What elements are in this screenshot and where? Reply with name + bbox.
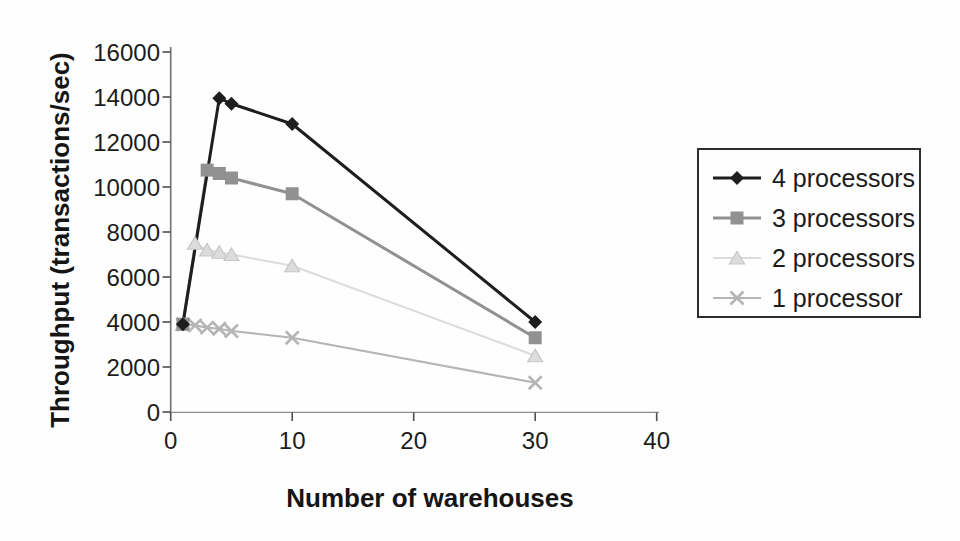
legend-marker-square-icon	[711, 203, 763, 233]
data-point-marker-square	[213, 167, 226, 180]
x-tick-label: 30	[522, 427, 549, 454]
figure: 0200040006000800010000120001400016000010…	[0, 0, 960, 541]
legend-item-label: 1 processor	[772, 284, 903, 313]
series-markers-2-processors	[175, 237, 542, 362]
data-point-marker-diamond	[212, 91, 226, 105]
data-point-marker-triangle	[188, 237, 203, 250]
legend: 4 processors 3 processors 2 processors 1…	[697, 148, 921, 318]
series-markers-1-processor	[176, 318, 541, 390]
x-tick-label: 0	[164, 427, 177, 454]
data-point-marker-square	[286, 187, 299, 200]
y-tick-label: 0	[147, 399, 160, 426]
y-tick-label: 4000	[107, 309, 160, 336]
y-axis-title: Throughput (transactions/sec)	[44, 20, 76, 460]
y-tick-label: 8000	[107, 219, 160, 246]
legend-item-4-processors: 4 processors	[711, 158, 919, 198]
legend-marker-diamond-icon	[711, 163, 763, 193]
data-point-marker-diamond	[224, 97, 238, 111]
data-point-marker-square	[201, 164, 214, 177]
x-tick-label: 40	[643, 427, 670, 454]
x-tick-label: 10	[279, 427, 306, 454]
series-markers-4-processors	[176, 91, 542, 331]
x-axis-title: Number of warehouses	[250, 483, 610, 514]
y-tick-label: 10000	[93, 174, 160, 201]
legend-item-label: 2 processors	[772, 244, 915, 273]
data-point-marker-square	[225, 172, 238, 185]
data-point-marker-triangle	[528, 349, 543, 362]
y-tick-label: 2000	[107, 354, 160, 381]
y-tick-label: 12000	[93, 129, 160, 156]
legend-marker-triangle-icon	[711, 243, 763, 273]
legend-item-2-processors: 2 processors	[711, 238, 919, 278]
legend-marker-x-icon	[711, 283, 763, 313]
y-tick-label: 14000	[93, 84, 160, 111]
y-tick-label: 6000	[107, 264, 160, 291]
data-point-marker-square	[731, 212, 744, 225]
legend-item-3-processors: 3 processors	[711, 198, 919, 238]
x-tick-label: 20	[400, 427, 427, 454]
legend-item-1-processor: 1 processor	[711, 278, 919, 318]
legend-item-label: 4 processors	[772, 164, 915, 193]
y-tick-label: 16000	[93, 39, 160, 66]
legend-item-label: 3 processors	[772, 204, 915, 233]
data-point-marker-diamond	[730, 171, 744, 185]
series-line-1-processor	[183, 324, 535, 383]
data-point-marker-square	[529, 331, 542, 344]
